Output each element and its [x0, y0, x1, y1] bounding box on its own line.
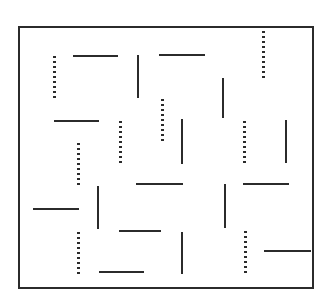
line-segment-solid-horizontal: [136, 183, 183, 185]
line-segment-solid-vertical: [181, 232, 183, 274]
line-segment-dotted-vertical: [243, 121, 246, 164]
line-segment-solid-vertical: [137, 55, 139, 98]
line-segment-solid-horizontal: [264, 250, 311, 252]
line-segment-dotted-vertical: [161, 99, 164, 144]
line-segment-solid-horizontal: [99, 271, 144, 273]
line-segment-dotted-vertical: [262, 31, 265, 78]
line-segment-dotted-vertical: [53, 56, 56, 101]
figure-canvas: [0, 0, 330, 302]
line-segment-solid-horizontal: [73, 55, 118, 57]
line-segment-solid-horizontal: [159, 54, 205, 56]
line-segment-dotted-vertical: [77, 143, 80, 188]
line-segment-solid-horizontal: [54, 120, 99, 122]
line-segment-solid-vertical: [224, 184, 226, 228]
line-segment-solid-vertical: [222, 78, 224, 118]
line-segment-solid-vertical: [181, 119, 183, 164]
line-segment-solid-horizontal: [119, 230, 161, 232]
line-segment-solid-horizontal: [33, 208, 79, 210]
line-segment-solid-vertical: [97, 186, 99, 229]
line-segment-dotted-vertical: [244, 231, 247, 274]
line-segment-dotted-vertical: [119, 121, 122, 164]
line-segment-solid-horizontal: [243, 183, 289, 185]
line-segment-solid-vertical: [285, 120, 287, 163]
line-segment-dotted-vertical: [77, 232, 80, 277]
